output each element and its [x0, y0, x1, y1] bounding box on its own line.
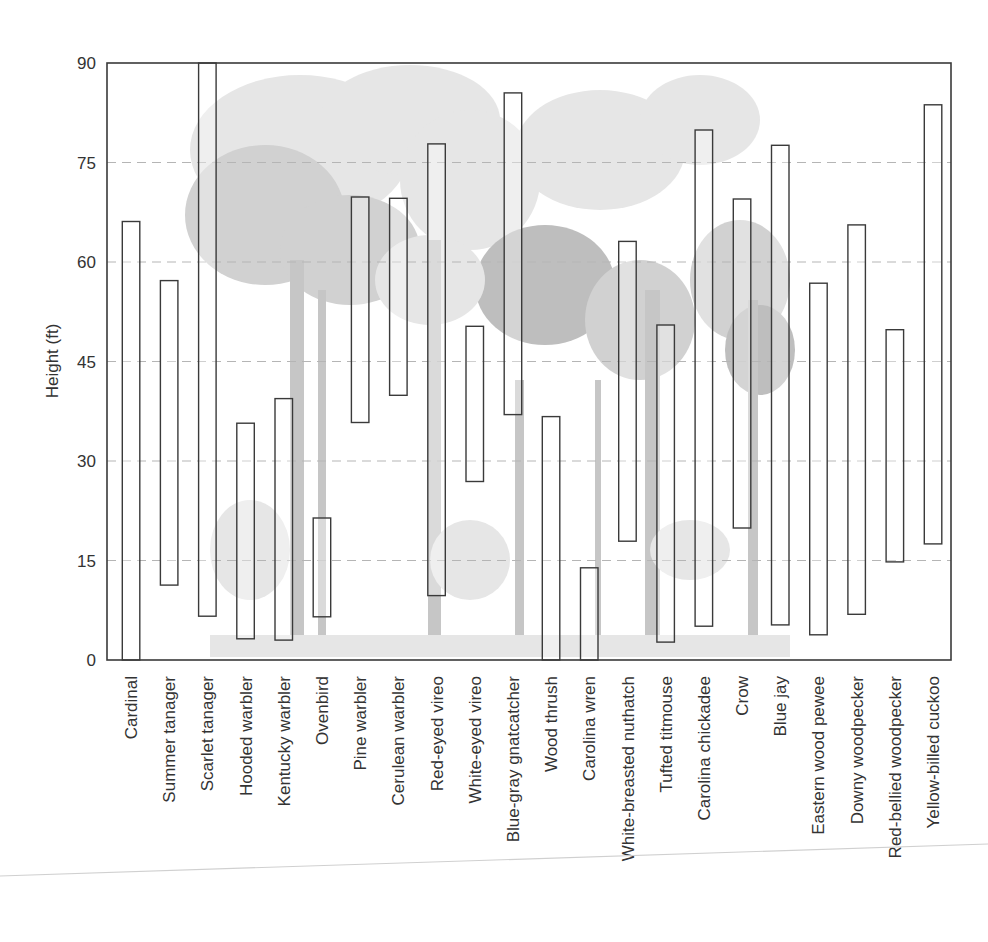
- range-bar-yellow-billed-cuckoo: [924, 105, 942, 544]
- x-category-label: Summer tanager: [160, 676, 179, 803]
- bird-foraging-height-chart: 0153045607590 Height (ft) CardinalSummer…: [0, 0, 988, 942]
- range-bar-blue-jay: [772, 145, 790, 625]
- range-bar-red-eyed-vireo: [428, 144, 446, 596]
- range-bar-white-eyed-vireo: [466, 326, 484, 481]
- x-category-label: Hooded warbler: [237, 676, 256, 796]
- y-tick-label: 90: [77, 54, 96, 73]
- x-axis-category-labels: CardinalSummer tanagerScarlet tanagerHoo…: [122, 675, 943, 861]
- range-bar-cardinal: [122, 222, 140, 661]
- x-category-label: Scarlet tanager: [198, 676, 217, 792]
- x-category-label: Blue-gray gnatcatcher: [504, 676, 523, 843]
- x-category-label: Pine warbler: [351, 676, 370, 771]
- x-category-label: Crow: [733, 675, 752, 715]
- x-category-label: Downy woodpecker: [848, 676, 867, 825]
- range-bar-downy-woodpecker: [848, 225, 866, 614]
- range-bar-white-breasted-nuthatch: [619, 241, 637, 541]
- y-axis-ticks: 0153045607590: [77, 54, 96, 670]
- y-tick-label: 0: [87, 651, 96, 670]
- x-category-label: Blue jay: [771, 676, 790, 737]
- x-category-label: Cardinal: [122, 676, 141, 739]
- x-category-label: Carolina chickadee: [695, 676, 714, 821]
- range-bar-tufted-titmouse: [657, 325, 675, 642]
- range-bar-red-bellied-woodpecker: [886, 330, 904, 562]
- x-category-label: Ovenbird: [313, 676, 332, 745]
- x-category-label: Eastern wood pewee: [809, 676, 828, 835]
- x-category-label: Yellow-billed cuckoo: [924, 676, 943, 828]
- range-bar-carolina-wren: [581, 568, 599, 660]
- x-category-label: Kentucky warbler: [275, 676, 294, 807]
- range-bar-kentucky-warbler: [275, 399, 293, 640]
- range-bar-blue-gray-gnatcatcher: [504, 93, 522, 415]
- range-bar-summer-tanager: [160, 281, 178, 585]
- x-category-label: Red-eyed vireo: [428, 676, 447, 791]
- y-tick-label: 15: [77, 552, 96, 571]
- range-bar-pine-warbler: [351, 197, 369, 423]
- range-bar-eastern-wood-pewee: [810, 283, 828, 635]
- y-tick-label: 45: [77, 353, 96, 372]
- range-bar-crow: [733, 199, 751, 528]
- x-category-label: Red-bellied woodpecker: [886, 676, 905, 859]
- range-bar-ovenbird: [313, 518, 331, 617]
- y-tick-label: 60: [77, 253, 96, 272]
- range-bar-hooded-warbler: [237, 423, 255, 639]
- y-tick-label: 30: [77, 452, 96, 471]
- range-bar-cerulean-warbler: [390, 198, 408, 395]
- x-category-label: Cerulean warbler: [389, 676, 408, 806]
- x-category-label: Wood thrush: [542, 676, 561, 772]
- page-edge-line: [0, 844, 988, 876]
- x-category-label: White-breasted nuthatch: [619, 676, 638, 861]
- range-bar-carolina-chickadee: [695, 130, 713, 626]
- x-category-label: Carolina wren: [580, 676, 599, 781]
- y-tick-label: 75: [77, 154, 96, 173]
- range-bar-wood-thrush: [542, 417, 560, 660]
- x-category-label: Tufted titmouse: [657, 676, 676, 793]
- range-bar-scarlet-tanager: [199, 63, 217, 616]
- x-category-label: White-eyed vireo: [466, 676, 485, 804]
- y-axis-title: Height (ft): [43, 324, 62, 399]
